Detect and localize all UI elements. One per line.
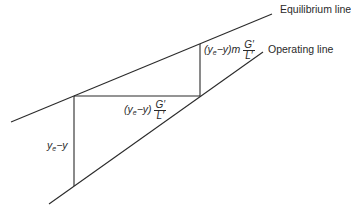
left-vertical-label: ye−y <box>47 140 68 152</box>
operating-line <box>49 52 263 204</box>
horizontal-label: (ye−y) G′ L′ <box>124 100 166 121</box>
label-prefix: (y <box>204 43 213 55</box>
label-mid: −y)m <box>217 43 241 55</box>
fraction-denominator: L′ <box>243 51 255 61</box>
fraction: G′ L′ <box>243 40 255 61</box>
label-prefix: (y <box>124 103 133 115</box>
label-mid: −y) <box>137 103 152 115</box>
operating-line-label: Operating line <box>268 44 333 55</box>
label-rest: −y <box>56 139 67 151</box>
right-vertical-label: (ye−y)m G′ L′ <box>204 40 255 61</box>
equilibrium-line-label: Equilibrium line <box>280 4 351 15</box>
fraction: G′ L′ <box>154 100 166 121</box>
fraction-denominator: L′ <box>154 111 166 121</box>
